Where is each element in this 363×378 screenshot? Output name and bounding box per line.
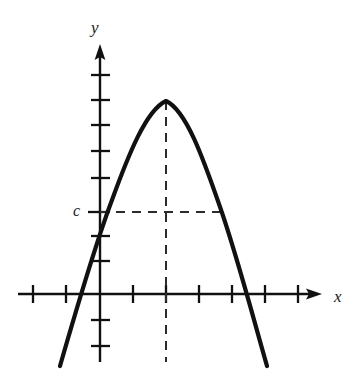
parabola-figure: y x c [0, 0, 363, 378]
y-intercept-label: c [73, 203, 80, 219]
y-axis-label: y [91, 19, 99, 36]
x-axis-label: x [334, 288, 342, 305]
graph-canvas [0, 0, 363, 378]
parabola-curve [60, 101, 267, 366]
